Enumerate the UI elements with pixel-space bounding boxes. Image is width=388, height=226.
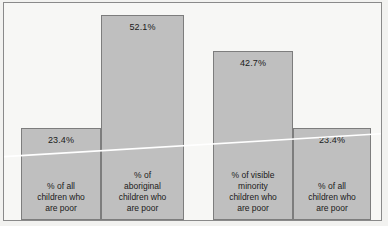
- bar-category-line: are poor: [23, 203, 99, 214]
- chart-container: 23.4% % of all children who are poor 52.…: [0, 0, 388, 226]
- bar-category-line: % of all: [295, 181, 369, 192]
- chart-frame: 23.4% % of all children who are poor 52.…: [3, 2, 382, 221]
- bar-value-label: 23.4%: [22, 135, 100, 145]
- bar-category-line: aboriginal: [103, 181, 182, 192]
- bar-category-line: are poor: [103, 203, 182, 214]
- bar-category-line: are poor: [215, 203, 291, 214]
- bar-value-label: 23.4%: [294, 135, 370, 145]
- bar-category-line: % of: [103, 170, 182, 181]
- bar-all-children-left: 23.4% % of all children who are poor: [21, 128, 101, 220]
- bar-category-line: children who: [215, 192, 291, 203]
- bar-category-line: are poor: [295, 203, 369, 214]
- bar-category-label: % of visible minority children who are p…: [215, 170, 291, 214]
- bar-value-label: 42.7%: [214, 58, 292, 68]
- bar-category-line: minority: [215, 181, 291, 192]
- bar-all-children-right: 23.4% % of all children who are poor: [293, 128, 371, 220]
- bar-category-line: children who: [295, 192, 369, 203]
- bar-visible-minority-children: 42.7% % of visible minority children who…: [213, 51, 293, 220]
- bar-category-line: children who: [103, 192, 182, 203]
- bar-category-label: % of all children who are poor: [23, 181, 99, 214]
- bar-category-line: children who: [23, 192, 99, 203]
- plot-area: 23.4% % of all children who are poor 52.…: [4, 3, 381, 220]
- bar-category-line: % of all: [23, 181, 99, 192]
- bar-aboriginal-children: 52.1% % of aboriginal children who are p…: [101, 15, 184, 220]
- bar-category-line: % of visible: [215, 170, 291, 181]
- bar-value-label: 52.1%: [102, 22, 183, 32]
- bar-category-label: % of aboriginal children who are poor: [103, 170, 182, 214]
- bar-category-label: % of all children who are poor: [295, 181, 369, 214]
